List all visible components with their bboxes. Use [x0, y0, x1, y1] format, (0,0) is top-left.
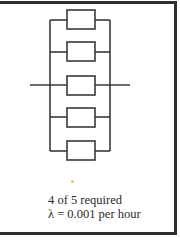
- stray-mark: [71, 180, 74, 183]
- component-block-4: [67, 108, 95, 127]
- failure-rate-label: λ = 0.001 per hour: [48, 207, 141, 221]
- branch-5: [50, 141, 110, 160]
- branch-1: [50, 10, 110, 29]
- branch-3: [67, 76, 95, 95]
- component-block-3: [67, 76, 95, 95]
- component-block-2: [67, 42, 95, 61]
- requirement-label: 4 of 5 required: [48, 193, 122, 207]
- component-block-5: [67, 141, 95, 160]
- component-block-1: [67, 10, 95, 29]
- branch-2: [50, 42, 110, 61]
- branch-4: [50, 108, 110, 127]
